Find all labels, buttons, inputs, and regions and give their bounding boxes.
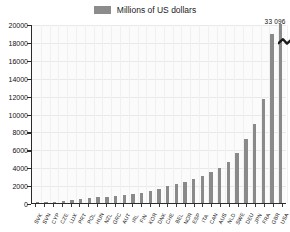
bar-item[interactable]	[172, 25, 181, 203]
bar-chart: 0200040006000800010000120001400016000180…	[0, 18, 290, 232]
x-axis-tick	[176, 204, 177, 207]
x-axis-tick	[106, 204, 107, 207]
x-axis-tick	[44, 204, 45, 207]
bar[interactable]	[192, 179, 195, 203]
bar-item[interactable]	[163, 25, 172, 203]
bar-item[interactable]	[207, 25, 216, 203]
bar[interactable]	[253, 124, 256, 203]
x-axis-tick	[62, 204, 63, 207]
bar-item[interactable]	[68, 25, 77, 203]
bar-item[interactable]	[181, 25, 190, 203]
bar[interactable]	[218, 168, 221, 203]
bar[interactable]	[201, 176, 204, 203]
x-axis-tick-label: USA	[279, 212, 290, 225]
bar-item[interactable]	[85, 25, 94, 203]
plot-area	[31, 25, 286, 204]
bar[interactable]	[262, 99, 265, 203]
bar-item[interactable]	[276, 25, 285, 203]
bar[interactable]	[235, 153, 238, 203]
grid-line-vertical	[287, 25, 288, 203]
bar[interactable]	[96, 197, 99, 203]
bar[interactable]	[36, 202, 39, 203]
bar[interactable]	[131, 194, 134, 203]
legend-swatch-icon	[94, 6, 111, 14]
bar-item[interactable]	[215, 25, 224, 203]
bar[interactable]	[270, 34, 273, 203]
x-axis-tick	[194, 204, 195, 207]
bar-item[interactable]	[250, 25, 259, 203]
bar-item[interactable]	[33, 25, 42, 203]
bar-item[interactable]	[259, 25, 268, 203]
x-axis-tick	[273, 204, 274, 207]
bar[interactable]	[114, 196, 117, 203]
bar[interactable]	[44, 202, 47, 203]
x-axis-label-cell: USA	[267, 208, 290, 226]
x-axis-tick	[202, 204, 203, 207]
bar[interactable]	[79, 199, 82, 203]
x-axis-tick	[238, 204, 239, 207]
bar-item[interactable]	[103, 25, 112, 203]
bar[interactable]	[149, 191, 152, 203]
bar-item[interactable]	[120, 25, 129, 203]
bar-item[interactable]	[111, 25, 120, 203]
x-axis-tick	[185, 204, 186, 207]
bar[interactable]	[105, 197, 108, 203]
bar[interactable]	[175, 184, 178, 203]
bar-item[interactable]	[268, 25, 277, 203]
x-axis-tick	[88, 204, 89, 207]
x-axis-tick	[132, 204, 133, 207]
x-axis-tick	[71, 204, 72, 207]
bar[interactable]	[227, 162, 230, 203]
bar-series	[32, 25, 286, 203]
value-annotation: 33 096	[265, 18, 286, 25]
bar[interactable]	[166, 186, 169, 203]
bar-item[interactable]	[242, 25, 251, 203]
x-axis-tick	[159, 204, 160, 207]
bar-item[interactable]	[224, 25, 233, 203]
x-axis-tick	[282, 204, 283, 207]
bar-item[interactable]	[50, 25, 59, 203]
x-axis-tick	[229, 204, 230, 207]
bar[interactable]	[157, 189, 160, 203]
x-axis-tick	[246, 204, 247, 207]
bar[interactable]	[62, 201, 65, 203]
y-axis-ticks	[0, 25, 31, 204]
bar-item[interactable]	[129, 25, 138, 203]
bar[interactable]	[209, 172, 212, 203]
x-axis-tick	[35, 204, 36, 207]
chart-legend: Millions of US dollars	[0, 2, 290, 18]
bar-item[interactable]	[198, 25, 207, 203]
x-axis-tick	[150, 204, 151, 207]
bar-item[interactable]	[233, 25, 242, 203]
bar[interactable]	[183, 182, 186, 203]
x-axis-tick	[97, 204, 98, 207]
x-axis-tick	[211, 204, 212, 207]
legend-label: Millions of US dollars	[117, 5, 196, 15]
x-axis-tick	[255, 204, 256, 207]
x-axis-tick	[115, 204, 116, 207]
bar-item[interactable]	[146, 25, 155, 203]
x-axis-tick	[220, 204, 221, 207]
bar[interactable]	[53, 202, 56, 203]
x-axis-tick	[141, 204, 142, 207]
x-axis-tick	[167, 204, 168, 207]
bar-item[interactable]	[137, 25, 146, 203]
bar[interactable]	[88, 198, 91, 203]
bar-item[interactable]	[155, 25, 164, 203]
x-axis-tick	[264, 204, 265, 207]
bar[interactable]	[123, 195, 126, 203]
x-axis-tick	[123, 204, 124, 207]
bar-item[interactable]	[59, 25, 68, 203]
bar[interactable]	[140, 193, 143, 203]
bar-item[interactable]	[42, 25, 51, 203]
bar-item[interactable]	[189, 25, 198, 203]
bar[interactable]	[70, 200, 73, 203]
x-axis-tick	[53, 204, 54, 207]
x-axis-category-labels: SVKSVNCYPCZELUXPRTPOLHUNNZLGRCAUTIRLFINK…	[31, 208, 286, 232]
bar-item[interactable]	[94, 25, 103, 203]
bar[interactable]	[244, 139, 247, 203]
bar-item[interactable]	[76, 25, 85, 203]
bar[interactable]	[279, 24, 282, 203]
x-axis-tick	[79, 204, 80, 207]
